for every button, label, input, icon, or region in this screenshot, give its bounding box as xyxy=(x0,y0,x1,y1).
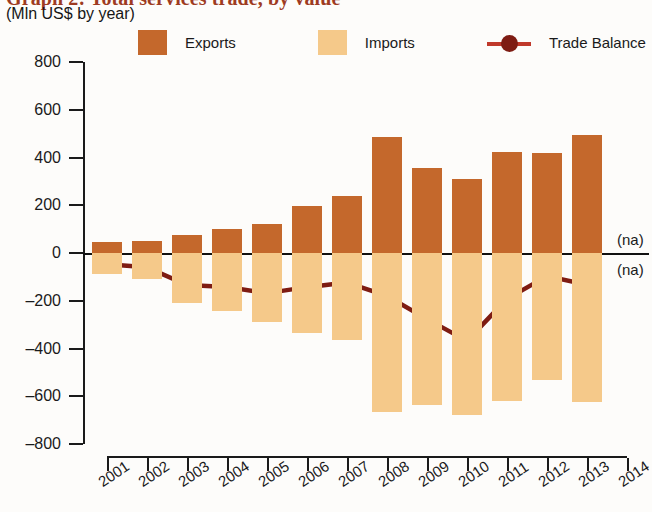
bar-imports xyxy=(452,253,482,415)
bar-exports xyxy=(372,137,402,253)
y-axis-label: –400 xyxy=(1,340,61,358)
bar-exports xyxy=(292,206,322,253)
bar-imports xyxy=(292,253,322,333)
bar-imports xyxy=(172,253,202,303)
y-axis-label: –600 xyxy=(1,387,61,405)
y-axis-tick xyxy=(69,61,83,63)
bar-imports xyxy=(92,253,122,274)
bar-imports xyxy=(572,253,602,402)
y-axis-label: 400 xyxy=(1,149,61,167)
bar-exports xyxy=(452,179,482,253)
y-axis-label: –200 xyxy=(1,292,61,310)
y-axis-label: 600 xyxy=(1,101,61,119)
bar-exports xyxy=(492,152,522,253)
y-axis-label: 200 xyxy=(1,196,61,214)
y-axis-tick xyxy=(69,157,83,159)
y-axis-tick xyxy=(69,348,83,350)
bar-exports xyxy=(252,224,282,253)
y-axis-tick xyxy=(69,109,83,111)
bar-imports xyxy=(372,253,402,412)
y-axis-tick xyxy=(69,204,83,206)
bar-imports xyxy=(132,253,162,279)
bar-imports xyxy=(212,253,242,311)
bar-exports xyxy=(572,135,602,253)
y-axis-label: –800 xyxy=(1,435,61,453)
y-axis-tick xyxy=(69,300,83,302)
bar-exports xyxy=(532,153,562,253)
na-annotation: (na) xyxy=(617,261,644,278)
y-axis-tick xyxy=(69,395,83,397)
bar-exports xyxy=(172,235,202,253)
bar-exports xyxy=(212,229,242,253)
y-axis-label: 0 xyxy=(1,244,61,262)
bar-imports xyxy=(332,253,362,340)
bar-exports xyxy=(132,241,162,253)
bar-exports xyxy=(412,168,442,253)
bar-imports xyxy=(252,253,282,322)
bar-exports xyxy=(332,196,362,253)
y-axis-tick xyxy=(69,252,83,254)
bar-exports xyxy=(92,242,122,253)
y-axis-label: 800 xyxy=(1,53,61,71)
bar-imports xyxy=(412,253,442,405)
bar-imports xyxy=(492,253,522,401)
na-annotation: (na) xyxy=(617,231,644,248)
y-axis-tick xyxy=(69,443,83,445)
bar-imports xyxy=(532,253,562,380)
